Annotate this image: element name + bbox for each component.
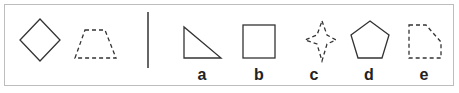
- option-c-label: c: [304, 66, 324, 84]
- option-b-label: b: [249, 66, 269, 84]
- option-a-label: a: [192, 66, 212, 84]
- diamond-shape: [20, 19, 60, 61]
- option-e-cut-rectangle[interactable]: [409, 25, 441, 58]
- option-b-square[interactable]: [243, 25, 275, 58]
- option-a-triangle[interactable]: [184, 27, 221, 58]
- option-d-label: d: [359, 66, 379, 84]
- puzzle-shapes: [0, 0, 459, 93]
- trapezoid-shape: [75, 30, 116, 58]
- option-c-star[interactable]: [305, 21, 336, 61]
- option-e-label: e: [414, 66, 434, 84]
- option-d-pentagon[interactable]: [351, 21, 389, 58]
